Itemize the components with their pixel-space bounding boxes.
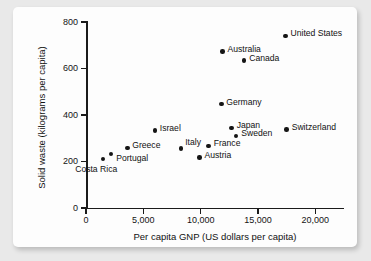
x-tick-mark [257,209,259,214]
data-point-label: Greece [132,141,160,150]
data-point [179,146,184,151]
data-point [109,152,114,157]
x-tick-label: 0 [56,216,116,225]
y-axis-title: Solid waste (kilograms per capita) [36,33,47,203]
data-point-label: Austria [205,151,232,160]
x-axis-title: Per capita GNP (US dollars per capita) [86,231,344,242]
data-point [283,34,288,39]
scatter-plot: 0200400600800 05,00010,00015,00020,000 C… [0,0,371,261]
data-point-label: France [214,139,241,148]
y-tick-mark [81,68,86,70]
x-tick-label: 10,000 [171,216,231,225]
screenshot-root: 0200400600800 05,00010,00015,00020,000 C… [0,0,371,261]
x-tick-label: 5,000 [113,216,173,225]
x-tick-mark [143,209,145,214]
data-point [242,58,247,63]
data-point-label: Italy [185,138,201,147]
data-point [229,126,234,131]
x-tick-mark [85,209,87,214]
data-point [219,102,224,107]
data-point [206,144,211,149]
data-point-label: Switzerland [292,123,336,132]
data-point-label: United States [291,29,343,38]
data-point-label: Sweden [241,129,272,138]
y-tick-label: 800 [38,18,78,27]
data-point [153,128,158,133]
x-axis-line [86,208,344,210]
data-point [125,146,130,151]
x-tick-label: 15,000 [228,216,288,225]
x-tick-mark [200,209,202,214]
data-point-label: Israel [160,124,181,133]
x-tick-label: 20,000 [285,216,345,225]
data-point-label: Costa Rica [75,165,117,174]
data-point [284,127,289,132]
y-tick-mark [81,21,86,23]
data-point [197,155,202,160]
data-point-label: Germany [226,98,261,107]
data-point [220,49,225,54]
data-point-label: Canada [249,54,279,63]
y-axis-line [86,21,88,209]
y-tick-label: 0 [38,204,78,213]
data-point-label: Portugal [116,154,148,163]
y-tick-mark [81,114,86,116]
x-tick-mark [315,209,317,214]
y-tick-mark [81,161,86,163]
data-point [101,157,106,162]
